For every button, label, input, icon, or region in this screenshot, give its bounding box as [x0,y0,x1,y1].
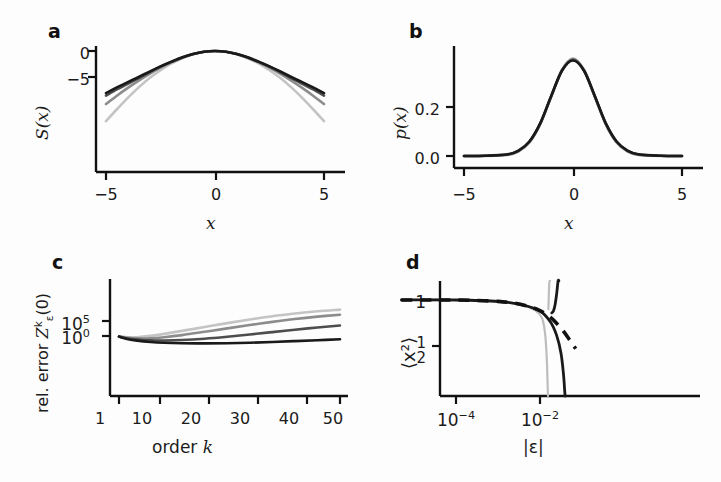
panel-c: c rel. error Zkε(0) 105 100 1 10 20 30 4… [0,241,360,482]
panel-c-plot [0,241,360,482]
panel-c-curves [119,310,340,344]
figure-canvas: a S(x) 0 −5 −5 0 5 x [0,0,721,482]
panel-a: a S(x) 0 −5 −5 0 5 x [0,0,360,241]
panel-a-curves [106,51,324,121]
panel-b: b p(x) 0.2 0.0 −5 0 5 x [360,0,721,241]
panel-a-plot [0,0,360,241]
panel-b-plot [360,0,721,241]
panel-d-plot [360,241,721,482]
panel-d: d ⟨x²⟩ 1 1 2 10−4 10−2 |ε| [360,241,721,482]
panel-d-curves [401,280,575,396]
panel-b-curves [464,58,682,156]
